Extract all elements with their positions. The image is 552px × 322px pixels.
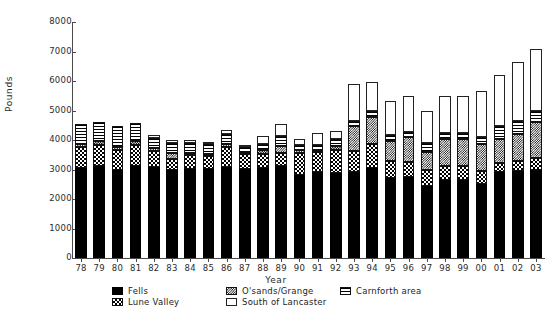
x-tick-label-81: 81: [127, 263, 145, 273]
bar-segment-fells: [494, 172, 506, 258]
bar-segment-lune-valley: [75, 147, 87, 168]
bar-87: [239, 145, 251, 258]
x-axis-line: [72, 258, 545, 259]
bar-segment-carnforth-area: [75, 124, 87, 143]
bar-segment-fells: [530, 170, 542, 259]
x-tick-label-79: 79: [90, 263, 108, 273]
legend-label: South of Lancaster: [242, 297, 327, 307]
legend-item-carnforth-area[interactable]: Carnforth area: [340, 286, 421, 296]
legend-item-fells[interactable]: Fells: [112, 286, 148, 296]
y-tick-mark: [72, 258, 76, 259]
x-tick-label-86: 86: [218, 263, 236, 273]
y-tick-label: 4000: [32, 134, 72, 144]
bar-segment-south-of-lancaster: [439, 96, 451, 133]
bar-segment-lune-valley: [312, 152, 324, 172]
bar-segment-fells: [275, 166, 287, 258]
x-tick-mark: [245, 258, 246, 262]
bar-segment-fells: [239, 169, 251, 258]
x-tick-mark: [299, 258, 300, 262]
y-tick-label: 8000: [32, 16, 72, 26]
bar-segment-o-sands-grange: [348, 126, 360, 150]
bar-segment-carnforth-area: [184, 143, 196, 153]
bar-segment-fells: [457, 180, 469, 258]
x-tick-mark: [154, 258, 155, 262]
x-tick-mark: [172, 258, 173, 262]
bar-segment-south-of-lancaster: [403, 96, 415, 132]
bar-segment-o-sands-grange: [366, 117, 378, 144]
bar-segment-carnforth-area: [130, 123, 142, 141]
bar-78: [75, 124, 87, 258]
x-tick-mark: [318, 258, 319, 262]
legend-swatch-icon: [112, 287, 123, 295]
bar-segment-lune-valley: [130, 145, 142, 165]
bar-segment-carnforth-area: [112, 126, 124, 147]
bar-segment-lune-valley: [330, 150, 342, 173]
bar-segment-south-of-lancaster: [275, 124, 287, 136]
x-tick-mark: [117, 258, 118, 262]
bar-79: [93, 122, 105, 258]
x-tick-label-99: 99: [454, 263, 472, 273]
bar-segment-o-sands-grange: [476, 144, 488, 171]
x-tick-mark: [208, 258, 209, 262]
legend-swatch-icon: [112, 298, 123, 306]
bar-segment-lune-valley: [403, 162, 415, 176]
bar-segment-fells: [330, 173, 342, 258]
legend-item-lune-valley[interactable]: Lune Valley: [112, 297, 179, 307]
x-tick-mark: [263, 258, 264, 262]
x-tick-mark: [354, 258, 355, 262]
bar-80: [112, 126, 124, 258]
legend-label: Fells: [128, 286, 148, 296]
legend-item-o-sands-grange[interactable]: O'sands/Grange: [226, 286, 314, 296]
bar-segment-lune-valley: [366, 144, 378, 168]
bar-segment-fells: [294, 175, 306, 258]
bar-segment-fells: [221, 167, 233, 258]
bar-segment-south-of-lancaster: [385, 101, 397, 136]
bar-86: [221, 130, 233, 258]
chart-root: Pounds 010002000300040005000600070008000…: [0, 0, 552, 322]
y-tick-label: 1000: [32, 223, 72, 233]
x-tick-label-89: 89: [272, 263, 290, 273]
y-axis-title: Pounds: [4, 76, 14, 112]
legend-swatch-icon: [340, 287, 351, 295]
chart-legend: FellsLune ValleyO'sands/GrangeSouth of L…: [0, 286, 552, 316]
bar-95: [385, 101, 397, 258]
bar-97: [421, 111, 433, 258]
bar-91: [312, 133, 324, 258]
x-tick-label-84: 84: [181, 263, 199, 273]
x-tick-label-03: 03: [527, 263, 545, 273]
y-tick-label: 7000: [32, 46, 72, 56]
y-tick-label: 0: [32, 252, 72, 262]
bar-98: [439, 96, 451, 258]
bar-segment-south-of-lancaster: [421, 111, 433, 144]
bar-segment-fells: [385, 178, 397, 258]
bar-83: [166, 140, 178, 258]
bar-89: [275, 124, 287, 258]
bar-segment-carnforth-area: [476, 137, 488, 144]
bar-88: [257, 136, 269, 258]
bar-segment-fells: [366, 168, 378, 258]
bar-segment-lune-valley: [275, 153, 287, 166]
x-tick-mark: [463, 258, 464, 262]
x-tick-label-91: 91: [309, 263, 327, 273]
bar-segment-south-of-lancaster: [312, 133, 324, 145]
x-tick-label-92: 92: [327, 263, 345, 273]
bar-segment-lune-valley: [93, 145, 105, 166]
x-tick-mark: [427, 258, 428, 262]
x-tick-label-93: 93: [345, 263, 363, 273]
x-tick-mark: [536, 258, 537, 262]
bar-segment-lune-valley: [421, 170, 433, 185]
x-tick-mark: [136, 258, 137, 262]
x-tick-label-96: 96: [400, 263, 418, 273]
x-tick-label-82: 82: [145, 263, 163, 273]
x-tick-label-87: 87: [236, 263, 254, 273]
x-tick-mark: [518, 258, 519, 262]
legend-item-south-of-lancaster[interactable]: South of Lancaster: [226, 297, 327, 307]
plot-area: [72, 22, 545, 258]
bar-segment-lune-valley: [203, 156, 215, 168]
bar-segment-carnforth-area: [203, 144, 215, 153]
bar-segment-lune-valley: [348, 151, 360, 173]
bar-segment-o-sands-grange: [385, 141, 397, 162]
bar-segment-fells: [75, 168, 87, 258]
bar-92: [330, 131, 342, 258]
legend-swatch-icon: [226, 287, 237, 295]
